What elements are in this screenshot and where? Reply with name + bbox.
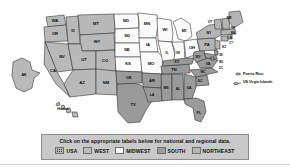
label-IA: IA (146, 42, 150, 47)
legend-label-northeast: NORTHEAST (203, 148, 235, 154)
label-UT: UT (81, 57, 87, 62)
label-OR: OR (52, 31, 58, 36)
state-DC[interactable] (211, 57, 214, 60)
territory-marker-icon[interactable] (236, 73, 240, 75)
label-SD: SD (124, 33, 130, 38)
label-NY: NY (207, 31, 213, 35)
label-KY: KY (175, 60, 181, 64)
us-regional-map[interactable]: WA OR ID MT WY NV UT CO CA AZ NM ND SD N… (0, 0, 290, 133)
label-AK: AK (21, 73, 27, 77)
label-VA: VA (206, 62, 211, 66)
label-PA: PA (204, 42, 209, 47)
label-NM: NM (103, 80, 110, 85)
usa-swatch-icon[interactable] (55, 147, 64, 154)
label-OK: OK (126, 75, 132, 80)
label-MS: MS (163, 86, 169, 90)
legend-label-midwest: MIDWEST (126, 148, 150, 154)
label-MD: MD (219, 60, 223, 64)
legend-item-midwest[interactable]: MIDWEST (115, 147, 150, 154)
legend-item-west[interactable]: WEST (83, 147, 109, 154)
label-OH: OH (189, 45, 195, 50)
state-FL[interactable] (184, 98, 206, 122)
callout-us-virgin-islands[interactable]: US Virgin Islands (234, 80, 273, 85)
label-ME: ME (226, 16, 232, 20)
south-swatch-icon[interactable] (157, 147, 166, 154)
label-AZ: AZ (79, 80, 85, 85)
region-legend-panel[interactable]: Click on the appropriate labels below fo… (41, 134, 249, 160)
territory-marker-icon[interactable] (234, 83, 239, 85)
label-DE: DE (219, 53, 223, 57)
legend-label-south: SOUTH (168, 148, 186, 154)
label-AR: AR (149, 78, 155, 83)
label-MA: MA (231, 31, 235, 35)
region-northeast[interactable] (196, 11, 243, 51)
label-MI: MI (182, 28, 187, 33)
state-CT[interactable] (221, 36, 228, 41)
legend-label-west: WEST (94, 148, 109, 154)
label-CO: CO (102, 58, 109, 63)
legend-label-usa: USA (66, 148, 77, 154)
label-TN: TN (171, 67, 177, 72)
label-WA: WA (52, 18, 59, 23)
label-NH: NH (231, 26, 235, 30)
label-TX: TX (130, 102, 136, 107)
label-NE: NE (124, 47, 130, 52)
label-WY: WY (94, 39, 101, 44)
label-ID: ID (71, 29, 75, 33)
state-VT[interactable] (214, 19, 222, 29)
label-CT: CT (229, 41, 233, 45)
label-MN: MN (144, 21, 150, 26)
label-GA: GA (186, 86, 192, 90)
label-DC: DC (219, 66, 223, 70)
label-VT: VT (208, 20, 213, 24)
label-HI: Hawaii (57, 107, 68, 111)
label-ND: ND (123, 18, 129, 23)
northeast-swatch-icon[interactable] (192, 147, 201, 154)
legend-items: USA WEST MIDWEST SOUTH NORTHEAST (42, 147, 248, 154)
west-swatch-icon[interactable] (83, 147, 92, 154)
callout-label-puerto-rico: Puerto Rico (243, 72, 264, 76)
label-SC: SC (198, 79, 203, 83)
label-MO: MO (148, 61, 155, 66)
legend-item-usa[interactable]: USA (55, 147, 77, 154)
footer-divider (0, 164, 290, 165)
label-RI: RI (230, 36, 233, 40)
label-CA: CA (50, 68, 56, 73)
callout-label-us-virgin-islands: US Virgin Islands (243, 80, 273, 84)
label-KS: KS (125, 61, 131, 66)
label-LA: LA (150, 93, 155, 97)
callout-puerto-rico[interactable]: Puerto Rico (236, 72, 264, 76)
legend-item-south[interactable]: SOUTH (157, 147, 186, 154)
state-DE[interactable] (214, 50, 218, 55)
label-WI: WI (162, 27, 167, 32)
label-WV: WV (196, 55, 201, 59)
midwest-swatch-icon[interactable] (115, 147, 124, 154)
label-NV: NV (59, 54, 65, 59)
label-MT: MT (93, 21, 99, 26)
legend-item-northeast[interactable]: NORTHEAST (192, 147, 235, 154)
label-IN: IN (176, 51, 180, 55)
label-NJ: NJ (222, 45, 226, 49)
legend-instruction: Click on the appropriate labels below fo… (42, 138, 248, 144)
state-NJ[interactable] (215, 40, 220, 49)
region-west[interactable] (12, 14, 117, 117)
territory-callouts[interactable]: Puerto Rico US Virgin Islands (234, 72, 273, 84)
map-page-root: WA OR ID MT WY NV UT CO CA AZ NM ND SD N… (0, 0, 290, 167)
label-NC: NC (200, 70, 206, 74)
